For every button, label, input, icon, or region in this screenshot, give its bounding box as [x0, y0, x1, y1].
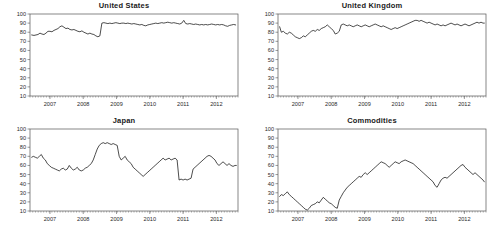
y-tick-label: 60 [20, 47, 26, 53]
series-line [32, 20, 236, 36]
panel-japan: Japan 1020304050607080901002007200820092… [0, 115, 248, 230]
y-tick-label: 30 [268, 190, 274, 196]
y-tick-label: 100 [265, 126, 274, 132]
y-tick-label: 20 [268, 199, 274, 205]
x-tick-label: 2011 [425, 101, 437, 107]
y-tick-label: 90 [20, 135, 26, 141]
panel-title-commodities: Commodities [248, 116, 496, 125]
y-tick-label: 50 [268, 172, 274, 178]
y-tick-label: 80 [20, 144, 26, 150]
panel-title-united-states: United States [0, 1, 248, 10]
panel-commodities: Commodities 1020304050607080901002007200… [248, 115, 496, 230]
x-tick-label: 2008 [325, 216, 337, 222]
x-tick-label: 2009 [110, 101, 122, 107]
panel-united-states: United States 10203040506070809010020072… [0, 0, 248, 115]
x-tick-label: 2009 [110, 216, 122, 222]
y-tick-label: 60 [20, 162, 26, 168]
panel-united-kingdom: United Kingdom 1020304050607080901002007… [248, 0, 496, 115]
series-line [32, 143, 237, 180]
plot-japan: 1020304050607080901002007200820092010201… [0, 115, 248, 230]
y-tick-label: 20 [20, 84, 26, 90]
y-tick-label: 10 [268, 208, 274, 214]
panel-title-japan: Japan [0, 116, 248, 125]
figure-panel-grid: United States 10203040506070809010020072… [0, 0, 496, 230]
x-tick-label: 2010 [392, 101, 404, 107]
x-tick-label: 2009 [358, 101, 370, 107]
y-tick-label: 10 [20, 208, 26, 214]
y-tick-label: 80 [268, 29, 274, 35]
y-tick-label: 70 [268, 153, 274, 159]
panel-title-united-kingdom: United Kingdom [248, 1, 496, 10]
x-tick-label: 2011 [177, 101, 189, 107]
x-tick-label: 2012 [210, 101, 222, 107]
y-tick-label: 100 [17, 126, 26, 132]
y-tick-label: 20 [268, 84, 274, 90]
y-tick-label: 90 [268, 135, 274, 141]
x-tick-label: 2008 [325, 101, 337, 107]
y-tick-label: 70 [20, 153, 26, 159]
y-tick-label: 50 [20, 57, 26, 63]
x-tick-label: 2010 [144, 101, 156, 107]
y-tick-label: 10 [268, 93, 274, 99]
y-tick-label: 60 [268, 47, 274, 53]
plot-united-states: 1020304050607080901002007200820092010201… [0, 0, 248, 115]
x-tick-label: 2011 [425, 216, 437, 222]
x-tick-label: 2007 [292, 216, 304, 222]
plot-united-kingdom: 1020304050607080901002007200820092010201… [248, 0, 496, 115]
y-tick-label: 90 [268, 20, 274, 26]
y-tick-label: 80 [20, 29, 26, 35]
x-tick-label: 2007 [292, 101, 304, 107]
y-tick-label: 40 [20, 181, 26, 187]
plot-commodities: 1020304050607080901002007200820092010201… [248, 115, 496, 230]
y-tick-label: 50 [20, 172, 26, 178]
x-tick-label: 2010 [392, 216, 404, 222]
y-tick-label: 50 [268, 57, 274, 63]
series-line [280, 160, 485, 210]
y-tick-label: 100 [17, 11, 26, 17]
y-tick-label: 40 [20, 66, 26, 72]
y-tick-label: 40 [268, 66, 274, 72]
x-tick-label: 2012 [210, 216, 222, 222]
y-tick-label: 100 [265, 11, 274, 17]
y-tick-label: 70 [20, 38, 26, 44]
x-tick-label: 2008 [77, 101, 89, 107]
y-tick-label: 80 [268, 144, 274, 150]
series-line [280, 20, 485, 38]
y-tick-label: 60 [268, 162, 274, 168]
x-tick-label: 2011 [177, 216, 189, 222]
y-tick-label: 30 [268, 75, 274, 81]
y-tick-label: 30 [20, 75, 26, 81]
x-tick-label: 2009 [358, 216, 370, 222]
x-tick-label: 2007 [44, 101, 56, 107]
y-tick-label: 40 [268, 181, 274, 187]
x-tick-label: 2008 [77, 216, 89, 222]
x-tick-label: 2007 [44, 216, 56, 222]
y-tick-label: 20 [20, 199, 26, 205]
x-tick-label: 2012 [458, 216, 470, 222]
x-tick-label: 2012 [458, 101, 470, 107]
x-tick-label: 2010 [144, 216, 156, 222]
y-tick-label: 10 [20, 93, 26, 99]
y-tick-label: 90 [20, 20, 26, 26]
y-tick-label: 70 [268, 38, 274, 44]
y-tick-label: 30 [20, 190, 26, 196]
